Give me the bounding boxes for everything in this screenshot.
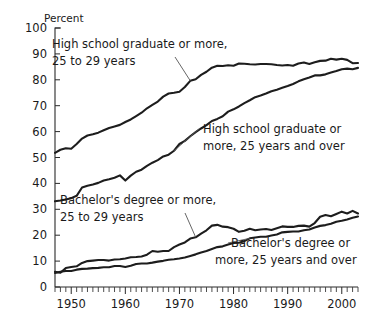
y-tick-label: 60 bbox=[32, 125, 47, 139]
y-tick-label: 30 bbox=[32, 202, 47, 216]
leader-line-hs-25-over bbox=[174, 128, 200, 151]
y-tick-label: 0 bbox=[40, 280, 47, 294]
x-tick-label: 1980 bbox=[219, 297, 248, 311]
annotation-hs-25-over-line1: High school graduate or bbox=[203, 122, 342, 136]
annotation-hs-25-29-line2: 25 to 29 years bbox=[52, 54, 135, 68]
y-tick-label: 10 bbox=[32, 254, 47, 268]
x-tick-label: 2000 bbox=[327, 297, 356, 311]
y-tick-label: 50 bbox=[32, 151, 47, 165]
chart-container: Percent 0102030405060708090100 195019601… bbox=[0, 0, 366, 313]
leader-line-hs-25-29 bbox=[175, 57, 190, 81]
y-tick-label: 80 bbox=[32, 73, 47, 87]
y-tick-label: 90 bbox=[32, 47, 47, 61]
y-tick-label: 20 bbox=[32, 228, 47, 242]
annotation-hs-25-29: High school graduate or more, 25 to 29 y… bbox=[52, 37, 227, 68]
annotation-hs-25-29-line1: High school graduate or more, bbox=[52, 37, 227, 51]
leader-line-ba-25-29 bbox=[185, 213, 196, 237]
annotation-ba-25-29: Bachelor's degree or more, 25 to 29 year… bbox=[60, 193, 216, 224]
line-chart: Percent 0102030405060708090100 195019601… bbox=[0, 0, 366, 313]
annotation-ba-25-over-line1: Bachelor's degree or bbox=[231, 236, 350, 250]
annotation-hs-25-over: High school graduate or more, 25 years a… bbox=[203, 122, 345, 153]
annotation-ba-25-29-line2: 25 to 29 years bbox=[60, 210, 143, 224]
annotation-ba-25-over-line2: more, 25 years and over bbox=[215, 253, 357, 267]
x-tick-label: 1960 bbox=[111, 297, 140, 311]
y-tick-label: 100 bbox=[25, 21, 47, 35]
y-axis-unit-label: Percent bbox=[44, 12, 84, 24]
x-axis-tick-labels: 195019601970198019902000 bbox=[57, 297, 357, 311]
x-tick-label: 1990 bbox=[273, 297, 302, 311]
y-axis-tick-labels: 0102030405060708090100 bbox=[25, 21, 47, 294]
annotation-ba-25-29-line1: Bachelor's degree or more, bbox=[60, 193, 216, 207]
annotation-ba-25-over: Bachelor's degree or more, 25 years and … bbox=[215, 236, 357, 267]
y-tick-label: 40 bbox=[32, 176, 47, 190]
x-tick-label: 1950 bbox=[57, 297, 86, 311]
annotation-hs-25-over-line2: more, 25 years and over bbox=[203, 139, 345, 153]
y-tick-label: 70 bbox=[32, 99, 47, 113]
x-tick-label: 1970 bbox=[165, 297, 194, 311]
x-axis-minor-ticks bbox=[55, 287, 358, 294]
